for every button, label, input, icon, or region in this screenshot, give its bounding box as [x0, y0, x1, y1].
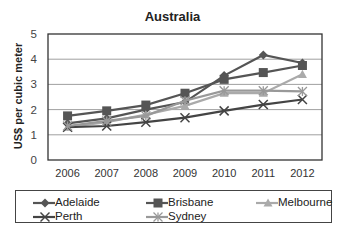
x-tick-label: 2010 [212, 167, 236, 179]
legend-item-sydney: Sydney [146, 209, 206, 223]
legend-label: Melbourne [278, 196, 332, 208]
y-tick-label: 0 [31, 154, 37, 166]
x-legend-icon [33, 211, 55, 223]
x-tick-label: 2012 [290, 167, 314, 179]
triangle-legend-icon [256, 197, 278, 209]
y-tick-label: 2 [31, 104, 37, 116]
diamond-marker [41, 198, 50, 207]
square-marker [298, 61, 307, 70]
legend-label: Perth [55, 210, 83, 222]
legend-label: Adelaide [55, 196, 100, 208]
square-marker [63, 111, 72, 120]
square-marker [259, 68, 268, 77]
legend-item-brisbane: Brisbane [146, 195, 213, 209]
triangle-marker [298, 70, 307, 78]
square-marker [102, 106, 111, 115]
square-marker [154, 198, 163, 207]
square-marker [141, 101, 150, 110]
x-tick-label: 2008 [134, 167, 158, 179]
line-chart: Australia US$ per cubic meter 0123452006… [0, 0, 345, 235]
legend: AdelaideBrisbaneMelbournePerthSydney [15, 190, 332, 223]
square-marker [220, 75, 229, 84]
y-tick-label: 5 [31, 28, 37, 40]
diamond-legend-icon [33, 197, 55, 209]
plot-area: 0123452006200720082009201020112012 [0, 0, 345, 190]
legend-item-perth: Perth [33, 209, 83, 223]
asterisk-legend-icon [146, 211, 168, 223]
y-tick-label: 1 [31, 129, 37, 141]
legend-item-adelaide: Adelaide [33, 195, 100, 209]
y-tick-label: 4 [31, 53, 38, 65]
legend-label: Brisbane [168, 196, 213, 208]
x-tick-label: 2011 [251, 167, 275, 179]
square-legend-icon [146, 197, 168, 209]
x-tick-label: 2009 [173, 167, 197, 179]
x-tick-label: 2006 [55, 167, 79, 179]
diamond-marker [259, 50, 268, 59]
legend-label: Sydney [168, 210, 206, 222]
x-tick-label: 2007 [94, 167, 118, 179]
legend-item-melbourne: Melbourne [256, 195, 332, 209]
y-tick-label: 3 [31, 78, 37, 90]
